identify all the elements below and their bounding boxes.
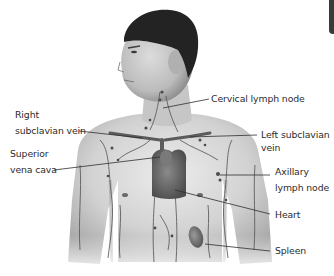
label-line: Heart bbox=[275, 207, 300, 223]
label-line: lymph node bbox=[275, 180, 329, 196]
label-heart: Heart bbox=[275, 207, 300, 223]
label-spleen: Spleen bbox=[275, 243, 306, 259]
label-line: vein bbox=[261, 141, 330, 154]
label-line: Right bbox=[15, 107, 86, 123]
label-axillary-lymph-node: Axillary lymph node bbox=[275, 164, 329, 196]
label-right-subclavian-vein: Right subclavian vein bbox=[15, 107, 86, 139]
label-line: Left subclavian bbox=[261, 128, 330, 141]
label-line: vena cava bbox=[10, 162, 57, 178]
corner-tab bbox=[329, 0, 334, 34]
label-left-subclavian-vein: Left subclavian vein bbox=[261, 128, 330, 154]
label-line: subclavian vein bbox=[15, 123, 86, 139]
label-cervical-lymph-node: Cervical lymph node bbox=[211, 91, 305, 107]
label-line: Spleen bbox=[275, 243, 306, 259]
label-line: Axillary bbox=[275, 164, 329, 180]
label-line: Cervical lymph node bbox=[211, 91, 305, 107]
label-line: Superior bbox=[10, 146, 57, 162]
label-superior-vena-cava: Superior vena cava bbox=[10, 146, 57, 178]
